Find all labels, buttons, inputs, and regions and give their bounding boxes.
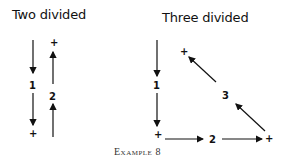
diagram-canvas: 1 + + 2 1 + 2 + 3 + [0, 0, 282, 163]
plus-top: + [180, 46, 188, 57]
plus-bottom-right: + [265, 133, 273, 144]
figure-caption: Example 8 [114, 146, 161, 157]
three-divided-diagram: 1 + 2 + 3 + [153, 40, 273, 145]
label-2: 2 [49, 91, 56, 102]
plus-top: + [50, 37, 58, 48]
label-2: 2 [209, 134, 216, 145]
plus-bottom-left: + [154, 129, 162, 140]
label-3: 3 [222, 90, 229, 101]
plus-bottom: + [29, 128, 37, 139]
label-1: 1 [29, 80, 36, 91]
arrow-diagonal-1 [236, 104, 265, 131]
arrow-diagonal-2 [189, 57, 216, 82]
two-divided-diagram: 1 + + 2 [29, 37, 58, 139]
label-1: 1 [153, 80, 160, 91]
